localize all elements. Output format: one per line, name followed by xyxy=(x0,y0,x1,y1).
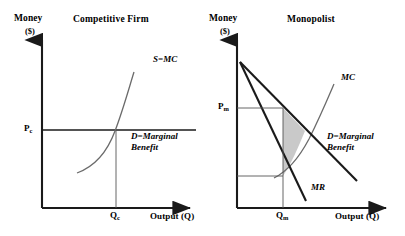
monopolist-demand-label-line2: Benefit xyxy=(327,142,354,152)
monopolist-quantity-tick-label: Qm xyxy=(276,211,288,220)
monopolist-quantity-tick-subscript: m xyxy=(283,214,288,221)
competitive-y-axis-subtitle: ($) xyxy=(25,27,35,36)
competitive-price-tick-subscript: c xyxy=(30,127,33,134)
competitive-supply-mc-curve xyxy=(77,72,134,173)
monopolist-mr-label: MR xyxy=(311,183,325,192)
monopolist-y-axis-subtitle: ($) xyxy=(220,27,230,36)
competitive-price-tick-label: Pc xyxy=(24,124,32,133)
monopolist-demand-label: D=Marginal Benefit xyxy=(327,131,374,153)
monopolist-x-axis-title: Output (Q) xyxy=(335,212,379,221)
diagram-canvas xyxy=(0,0,405,236)
monopolist-demand-label-line1: D=Marginal xyxy=(327,131,374,141)
competitive-demand-label: D=Marginal Benefit xyxy=(131,131,178,153)
competitive-demand-label-line1: D=Marginal xyxy=(131,131,178,141)
monopolist-price-tick-subscript: m xyxy=(224,105,229,112)
monopolist-y-axis-title: Money xyxy=(209,14,237,24)
competitive-y-axis-title: Money xyxy=(14,14,42,24)
monopolist-demand-line xyxy=(240,62,357,181)
competitive-price-tick-letter: P xyxy=(24,123,30,133)
competitive-demand-label-line2: Benefit xyxy=(131,142,158,152)
competitive-supply-label: S=MC xyxy=(153,55,177,64)
competitive-quantity-tick-label: Qc xyxy=(110,211,120,220)
monopolist-quantity-tick-letter: Q xyxy=(276,210,283,220)
monopolist-price-tick-letter: P xyxy=(218,101,224,111)
competitive-quantity-tick-subscript: c xyxy=(117,214,120,221)
economics-diagram: Money ($) Competitive Firm S=MC D=Margin… xyxy=(0,0,405,236)
competitive-x-axis-title: Output (Q) xyxy=(150,212,194,221)
competitive-quantity-tick-letter: Q xyxy=(110,210,117,220)
monopolist-mc-label: MC xyxy=(341,73,355,82)
monopolist-panel-title: Monopolist xyxy=(287,15,335,25)
panel-competitive-firm xyxy=(42,40,196,208)
competitive-firm-panel-title: Competitive Firm xyxy=(73,15,149,25)
monopolist-price-tick-label: Pm xyxy=(218,102,229,111)
